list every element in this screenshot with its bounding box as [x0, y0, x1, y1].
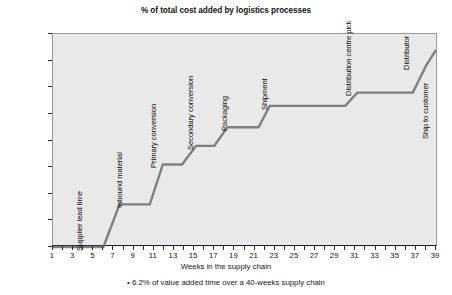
- x-tick-mark: [304, 246, 305, 250]
- process-label: Ship to customer: [421, 83, 430, 139]
- process-label: Primary conversion: [149, 104, 158, 168]
- x-tick-mark: [294, 246, 295, 250]
- process-label: Inbound material: [115, 152, 124, 208]
- x-tick-mark: [233, 246, 234, 250]
- process-label: Packaging: [220, 96, 229, 131]
- x-tick-mark: [284, 246, 285, 250]
- x-tick-mark: [364, 246, 365, 250]
- x-tick-mark: [425, 246, 426, 250]
- x-tick-label: 5: [90, 251, 94, 260]
- x-tick-mark: [213, 246, 214, 250]
- x-tick-label: 3: [70, 251, 74, 260]
- step-line-series: [53, 34, 438, 247]
- x-tick-mark: [274, 246, 275, 250]
- x-tick-mark: [92, 246, 93, 250]
- x-tick-mark: [435, 246, 436, 250]
- x-tick-label: 7: [110, 251, 114, 260]
- x-tick-label: 29: [330, 251, 339, 260]
- process-label: Distributor: [402, 36, 411, 70]
- x-tick-label: 1: [50, 251, 54, 260]
- chart-figure: % of total cost added by logistics proce…: [0, 0, 452, 295]
- x-tick-mark: [385, 246, 386, 250]
- x-tick-mark: [143, 246, 144, 250]
- x-tick-mark: [395, 246, 396, 250]
- x-tick-mark: [415, 246, 416, 250]
- x-tick-mark: [52, 246, 53, 250]
- x-tick-mark: [123, 246, 124, 250]
- x-tick-label: 35: [390, 251, 399, 260]
- x-tick-mark: [82, 246, 83, 250]
- process-label: Shipment: [260, 78, 269, 110]
- x-tick-label: 13: [169, 251, 178, 260]
- x-tick-label: 19: [229, 251, 238, 260]
- x-tick-label: 15: [189, 251, 198, 260]
- x-tick-mark: [223, 246, 224, 250]
- x-tick-mark: [163, 246, 164, 250]
- x-tick-mark: [264, 246, 265, 250]
- x-axis-title: Weeks in the supply chain: [0, 262, 452, 271]
- process-label: Distribution centre pick: [344, 21, 353, 97]
- x-tick-mark: [354, 246, 355, 250]
- chart-title: % of total cost added by logistics proce…: [0, 6, 452, 15]
- x-tick-mark: [244, 246, 245, 250]
- x-tick-mark: [344, 246, 345, 250]
- x-tick-mark: [203, 246, 204, 250]
- process-label: Supplier lead time: [75, 191, 84, 251]
- x-tick-mark: [133, 246, 134, 250]
- x-tick-label: 21: [249, 251, 258, 260]
- x-tick-mark: [193, 246, 194, 250]
- x-tick-mark: [62, 246, 63, 250]
- x-tick-label: 23: [269, 251, 278, 260]
- x-tick-label: 17: [209, 251, 218, 260]
- x-tick-mark: [72, 246, 73, 250]
- x-tick-label: 33: [370, 251, 379, 260]
- x-tick-mark: [183, 246, 184, 250]
- x-tick-mark: [173, 246, 174, 250]
- x-tick-mark: [254, 246, 255, 250]
- x-tick-mark: [334, 246, 335, 250]
- x-tick-label: 11: [149, 251, 157, 260]
- x-tick-mark: [112, 246, 113, 250]
- x-tick-mark: [153, 246, 154, 250]
- x-tick-label: 37: [410, 251, 419, 260]
- plot-inner: Supplier lead timeInbound materialPrimar…: [53, 34, 436, 245]
- x-tick-mark: [324, 246, 325, 250]
- chart-caption: • 6.2% of value added time over a 40-wee…: [0, 278, 452, 287]
- x-tick-label: 9: [130, 251, 134, 260]
- x-tick-label: 25: [290, 251, 299, 260]
- x-tick-mark: [102, 246, 103, 250]
- x-tick-mark: [375, 246, 376, 250]
- x-tick-label: 31: [350, 251, 359, 260]
- x-tick-label: 27: [310, 251, 319, 260]
- x-tick-mark: [405, 246, 406, 250]
- x-tick-mark: [314, 246, 315, 250]
- cost-step-line: [53, 50, 436, 247]
- process-label: Secondary conversion: [186, 75, 195, 149]
- x-tick-label: 39: [431, 251, 440, 260]
- plot-area: Supplier lead timeInbound materialPrimar…: [52, 33, 437, 246]
